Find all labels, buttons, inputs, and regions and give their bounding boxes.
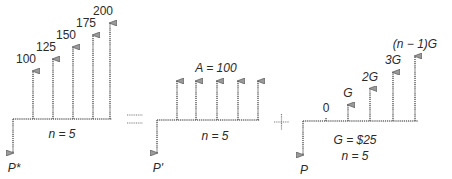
cash-flow-label: 175 xyxy=(76,16,96,30)
period-count-label: n = 5 xyxy=(48,127,75,141)
cash-flow-label: 3G xyxy=(385,53,401,67)
diagram-linear-gradient: 0G2G3G(n − 1)Gn = 5PG = $25 xyxy=(300,37,437,177)
cash-flow-label: 100 xyxy=(16,52,36,66)
period-count-label: n = 5 xyxy=(341,149,368,163)
period-count-label: n = 5 xyxy=(201,129,228,143)
present-value-label: P' xyxy=(153,161,164,175)
diagram-uniform-series: n = 5P'A = 100 xyxy=(153,61,260,175)
plus-operator xyxy=(274,114,289,130)
diagram-gradient-series: 100125150175200n = 5P* xyxy=(8,4,114,175)
cash-flow-diagram: 100125150175200n = 5P* n = 5P'A = 100 0G… xyxy=(0,0,452,179)
cash-flow-label: (n − 1)G xyxy=(393,37,437,51)
present-value-label: P* xyxy=(8,161,21,175)
present-value-label: P xyxy=(300,163,308,177)
gradient-amount-label: G = $25 xyxy=(333,133,376,147)
uniform-amount-label: A = 100 xyxy=(194,61,237,75)
cash-flow-label: 125 xyxy=(36,40,56,54)
cash-flow-label: G xyxy=(343,86,352,100)
cash-flow-label: 150 xyxy=(56,28,76,42)
cash-flow-label: 200 xyxy=(93,4,113,18)
cash-flow-label: 2G xyxy=(361,70,378,84)
cash-flow-label: 0 xyxy=(323,101,330,115)
equals-operator xyxy=(127,115,143,123)
